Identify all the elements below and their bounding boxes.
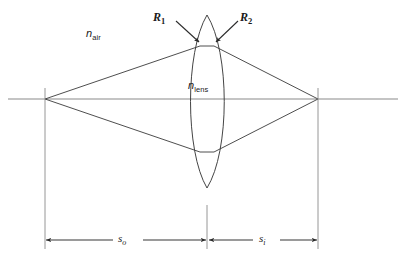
label-s-image: si [259,233,266,244]
ray-upper-refracted [214,46,318,99]
label-r1-subscript: 1 [161,16,165,26]
lens-diagram-figure: nair nlens R1 R2 so si [0,0,405,262]
label-s-image-subscript: i [263,238,265,247]
lens-surface-r2-right [207,15,224,188]
r1-leader-arrow [176,21,199,42]
label-r2-subscript: 2 [248,16,252,26]
label-s-object-subscript: o [122,238,126,247]
label-n-air-subscript: air [92,33,101,42]
label-n-air: nair [86,28,101,39]
ray-lower-refracted [214,99,318,152]
ray-lower-incident [45,99,200,152]
lens-surface-r1-left [191,15,208,188]
label-r2-symbol: R [240,10,248,24]
label-r1-symbol: R [153,10,161,24]
dimension-extension-lines [45,88,318,249]
ray-upper-incident [45,46,200,99]
radius-leader-arrows [176,21,238,42]
biconvex-lens [191,15,225,188]
label-s-object: so [118,233,126,244]
optics-ray-diagram-svg [0,0,405,262]
label-n-lens: nlens [188,80,208,91]
label-n-lens-subscript: lens [194,85,208,94]
label-r2: R2 [240,11,252,23]
label-r1: R1 [153,11,165,23]
r2-leader-arrow [216,21,238,42]
